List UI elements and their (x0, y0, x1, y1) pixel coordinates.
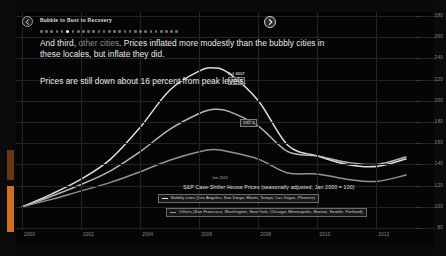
prev-slide-button[interactable] (22, 16, 33, 27)
y-axis-tick (416, 16, 420, 17)
legend-swatch-others (170, 212, 176, 213)
pagination-dot[interactable] (87, 30, 90, 33)
grid-line-horizontal (16, 228, 434, 229)
accent-band-secondary (7, 150, 14, 180)
x-axis-tick-label: 2006 (201, 233, 212, 238)
legend-label-others: Others (San Francisco, Washington, New Y… (179, 210, 363, 214)
y-axis-tick (416, 101, 420, 102)
legend-label-bubbly: Bubbly cities (Los Angeles, San Diego, M… (171, 196, 315, 200)
y-axis-tick-label: 80 (437, 226, 443, 231)
pagination-dot[interactable] (129, 30, 132, 33)
y-axis-tick (416, 143, 420, 144)
grid-line-horizontal (16, 143, 434, 144)
y-axis-tick (416, 58, 420, 59)
y-axis-tick-label: 220 (435, 78, 443, 83)
pagination-dot[interactable] (56, 30, 59, 33)
pagination-dot[interactable] (103, 30, 106, 33)
y-axis-tick-label: 200 (435, 99, 443, 104)
grid-line-horizontal (16, 16, 434, 17)
grid-line-horizontal (16, 164, 434, 165)
pagination-dot[interactable] (40, 30, 43, 33)
y-axis-tick (416, 228, 420, 229)
x-axis-tick-label: 2002 (83, 233, 94, 238)
pagination-dot[interactable] (45, 30, 48, 33)
y-axis-tick (416, 37, 420, 38)
pagination-dot[interactable] (72, 30, 75, 33)
legend-item-bubbly[interactable]: Bubbly cities (Los Angeles, San Diego, M… (158, 194, 319, 203)
legend-swatch-bubbly (162, 198, 168, 199)
y-axis-tick (416, 186, 420, 187)
grid-line-horizontal (16, 80, 434, 81)
pagination-dot[interactable] (118, 30, 121, 33)
x-axis-tick-label: 2004 (142, 233, 153, 238)
y-axis-tick-label: 100 (435, 205, 443, 210)
letterbox-bottom (0, 246, 446, 256)
x-axis-tick-label: 2012 (378, 233, 389, 238)
chevron-right-icon (268, 19, 273, 25)
y-axis-tick-label: 140 (435, 162, 443, 167)
pagination-dot[interactable] (155, 30, 158, 33)
pagination-dot[interactable] (61, 30, 64, 33)
pagination-dot[interactable] (92, 30, 95, 33)
grid-line-horizontal (16, 37, 434, 38)
y-axis-tick (416, 80, 420, 81)
pagination-dot[interactable] (77, 30, 80, 33)
chart-title: S&P Case-Shiller House Prices (seasonall… (183, 184, 355, 190)
y-axis-tick-label: 120 (435, 184, 443, 189)
y-axis: 28026024022020018016014012010080 (416, 12, 446, 246)
pagination-dot[interactable] (108, 30, 111, 33)
annotation-mid[interactable]: 192.3 (240, 119, 257, 127)
pagination-dot[interactable] (165, 30, 168, 33)
pagination-dot[interactable] (144, 30, 147, 33)
grid-line-vertical (140, 12, 141, 230)
pagination-dot[interactable] (98, 30, 101, 33)
annotation-peak-value: 226.3 (228, 77, 245, 85)
pagination-dot[interactable] (175, 30, 178, 33)
y-axis-tick (416, 122, 420, 123)
pagination-dot[interactable] (66, 30, 69, 33)
grid-line-vertical (81, 12, 82, 230)
pagination-dot[interactable] (50, 30, 53, 33)
y-axis-tick-label: 160 (435, 141, 443, 146)
y-axis-tick-label: 240 (435, 56, 443, 61)
pagination-dots[interactable] (40, 30, 178, 33)
letterbox-top (0, 0, 446, 12)
pagination-dot[interactable] (170, 30, 173, 33)
y-axis-tick-label: 180 (435, 120, 443, 125)
grid-line-horizontal (16, 122, 434, 123)
grid-line-horizontal (16, 101, 434, 102)
slideshow-chart-stage: 28026024022020018016014012010080 2000200… (0, 0, 446, 256)
legend-item-others[interactable]: Others (San Francisco, Washington, New Y… (166, 208, 367, 217)
x-axis: 2000200220042006200820102012 (16, 230, 434, 246)
annotation-peak[interactable]: Jul 2007 226.3 (228, 72, 245, 85)
pagination-dot[interactable] (82, 30, 85, 33)
chart-series-line (22, 109, 406, 207)
pagination-dot[interactable] (134, 30, 137, 33)
x-axis-tick-label: 2000 (24, 233, 35, 238)
y-axis-tick-label: 260 (435, 35, 443, 40)
pagination-dot[interactable] (160, 30, 163, 33)
grid-line-vertical (376, 12, 377, 230)
x-axis-tick-label: 2008 (260, 233, 271, 238)
pagination-dot[interactable] (124, 30, 127, 33)
grid-line-horizontal (16, 58, 434, 59)
y-axis-tick (416, 207, 420, 208)
annotation-peak-label: Jul 2007 (228, 72, 245, 76)
x-axis-tick-label: 2010 (319, 233, 330, 238)
pagination-dot[interactable] (139, 30, 142, 33)
annotation-mid-value: 192.3 (240, 119, 257, 127)
annotation-legend-tag: Jun 2012 (212, 176, 228, 180)
pagination-dot[interactable] (150, 30, 153, 33)
next-slide-button[interactable] (264, 16, 276, 28)
y-axis-tick (416, 164, 420, 165)
chevron-left-icon (25, 19, 30, 25)
grid-line-vertical (22, 12, 23, 230)
accent-band-orange (7, 186, 14, 232)
pagination-dot[interactable] (113, 30, 116, 33)
y-axis-tick-label: 280 (435, 14, 443, 19)
